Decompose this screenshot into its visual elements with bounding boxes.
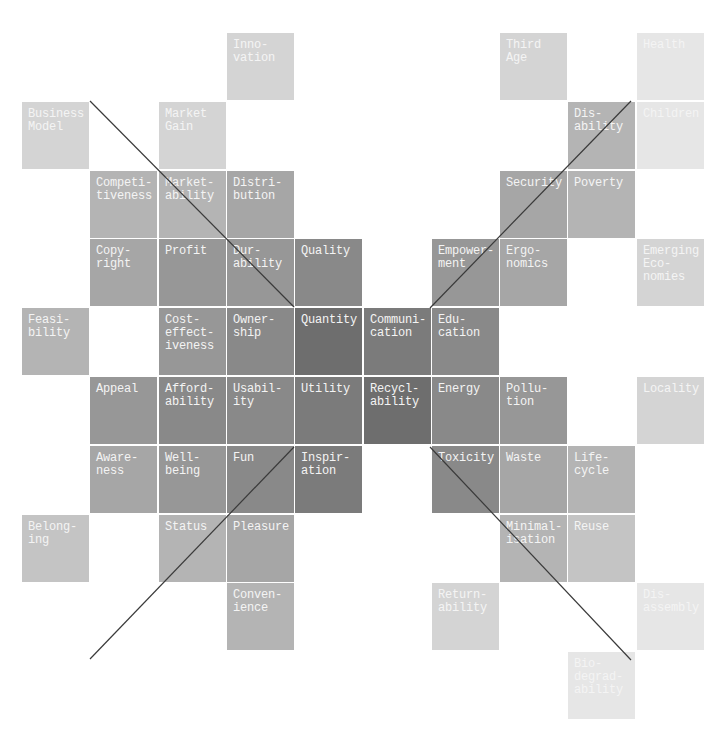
grid-cell-fun: Fun: [227, 446, 294, 513]
grid-cell-costeffectiveness: Cost- effect- iveness: [159, 308, 226, 375]
grid-cell-distribution: Distri- bution: [227, 171, 294, 238]
grid-cell-disability: Dis- ability: [568, 102, 635, 169]
grid-cell-businessmodel: Business Model: [22, 102, 89, 169]
grid-cell-reuse: Reuse: [568, 515, 635, 582]
grid-cell-disassembly: Dis- assembly: [637, 583, 704, 650]
grid-cell-health: Health: [637, 33, 704, 100]
grid-cell-marketgain: Market Gain: [159, 102, 226, 169]
grid-cell-communication: Communi- cation: [364, 308, 431, 375]
grid-cell-status: Status: [159, 515, 226, 582]
grid-cell-recyclability: Recycl- ability: [364, 377, 431, 444]
grid-cell-feasibility: Feasi- bility: [22, 308, 89, 375]
grid-cell-children: Children: [637, 102, 704, 169]
grid-cell-appeal: Appeal: [90, 377, 157, 444]
grid-cell-waste: Waste: [500, 446, 567, 513]
grid-cell-poverty: Poverty: [568, 171, 635, 238]
grid-cell-biodegradability: Bio- degrad- ability: [568, 652, 635, 719]
grid-cell-convenience: Conven- ience: [227, 583, 294, 650]
grid-cell-innovation: Inno- vation: [227, 33, 294, 100]
grid-cell-toxicity: Toxicity: [432, 446, 499, 513]
grid-cell-empowerment: Empower- ment: [432, 239, 499, 306]
grid-cell-profit: Profit: [159, 239, 226, 306]
grid-cell-returnability: Return- ability: [432, 583, 499, 650]
grid-cell-durability: Dur- ability: [227, 239, 294, 306]
grid-cell-marketability: Market- ability: [159, 171, 226, 238]
grid-cell-education: Edu- cation: [432, 308, 499, 375]
grid-cell-inspiration: Inspir- ation: [295, 446, 362, 513]
grid-cell-lifecycle: Life- cycle: [568, 446, 635, 513]
grid-cell-pleasure: Pleasure: [227, 515, 294, 582]
grid-cell-usability: Usabil- ity: [227, 377, 294, 444]
grid-cell-emergingeconomies: Emerging Eco- nomies: [637, 239, 704, 306]
grid-cell-ergonomics: Ergo- nomics: [500, 239, 567, 306]
matrix-diagram: Inno- vationThird AgeHealthBusiness Mode…: [0, 0, 720, 749]
grid-cell-copyright: Copy- right: [90, 239, 157, 306]
grid-cell-awareness: Aware- ness: [90, 446, 157, 513]
grid-cell-belonging: Belong- ing: [22, 515, 89, 582]
grid-cell-locality: Locality: [637, 377, 704, 444]
grid-cell-ownership: Owner- ship: [227, 308, 294, 375]
grid-cell-quantity: Quantity: [295, 308, 362, 375]
grid-cell-energy: Energy: [432, 377, 499, 444]
grid-cell-quality: Quality: [295, 239, 362, 306]
grid-cell-security: Security: [500, 171, 567, 238]
grid-cell-utility: Utility: [295, 377, 362, 444]
grid-cell-competitiveness: Competi- tiveness: [90, 171, 157, 238]
grid-cell-thirdage: Third Age: [500, 33, 567, 100]
grid-cell-pollution: Pollu- tion: [500, 377, 567, 444]
grid-cell-minimalisation: Minimal- isation: [500, 515, 567, 582]
grid-cell-affordability: Afford- ability: [159, 377, 226, 444]
grid-cell-wellbeing: Well- being: [159, 446, 226, 513]
